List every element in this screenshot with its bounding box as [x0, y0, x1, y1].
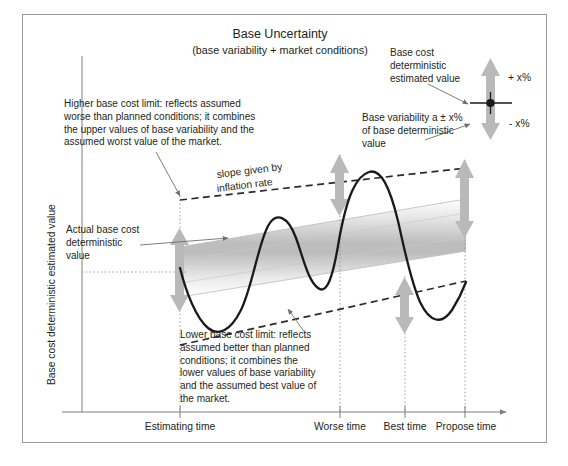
uncertainty-arrow-best [395, 277, 414, 334]
annotation-actual-base: Actual base cost deterministic value [66, 224, 176, 262]
legend-variability-label: Base variability a ± x% of base determin… [362, 112, 492, 150]
figure-canvas: Base Uncertainty (base variability + mar… [0, 0, 568, 466]
tick-label-propose-time: Propose time [424, 420, 508, 433]
legend-deterministic-label: Base cost deterministic estimated value [390, 47, 490, 85]
base-variability-band [180, 199, 466, 297]
legend-minus-percent: - x% [509, 117, 530, 130]
tick-label-estimating-time: Estimating time [130, 420, 230, 433]
legend-plus-percent: + x% [508, 71, 531, 84]
annotation-lower-limit: Lower base cost limit: reflects assumed … [180, 329, 360, 406]
y-axis-label: Base cost deterministic estimated value [46, 204, 57, 385]
page-subtitle: (base variability + market conditions) [140, 44, 420, 58]
annotation-upper-limit: Higher base cost limit: reflects assumed… [64, 98, 314, 149]
page-title: Base Uncertainty [150, 26, 410, 42]
